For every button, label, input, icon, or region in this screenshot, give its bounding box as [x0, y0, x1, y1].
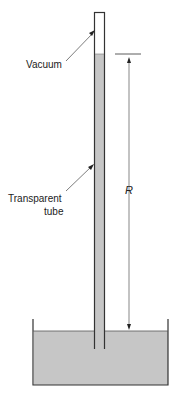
barometer-diagram: Vacuum Transparent tube R — [0, 0, 176, 397]
vacuum-pointer-line — [66, 33, 93, 61]
height-symbol-label: R — [125, 184, 133, 196]
vacuum-region — [95, 12, 104, 54]
tube-liquid-column — [95, 54, 104, 349]
vacuum-label: Vacuum — [26, 59, 62, 70]
arrow-up-icon — [127, 57, 131, 63]
tube-pointer-line — [66, 166, 92, 191]
tube-label-line2: tube — [44, 206, 64, 217]
arrow-down-icon — [127, 324, 131, 330]
tube-label-line1: Transparent — [8, 193, 62, 204]
